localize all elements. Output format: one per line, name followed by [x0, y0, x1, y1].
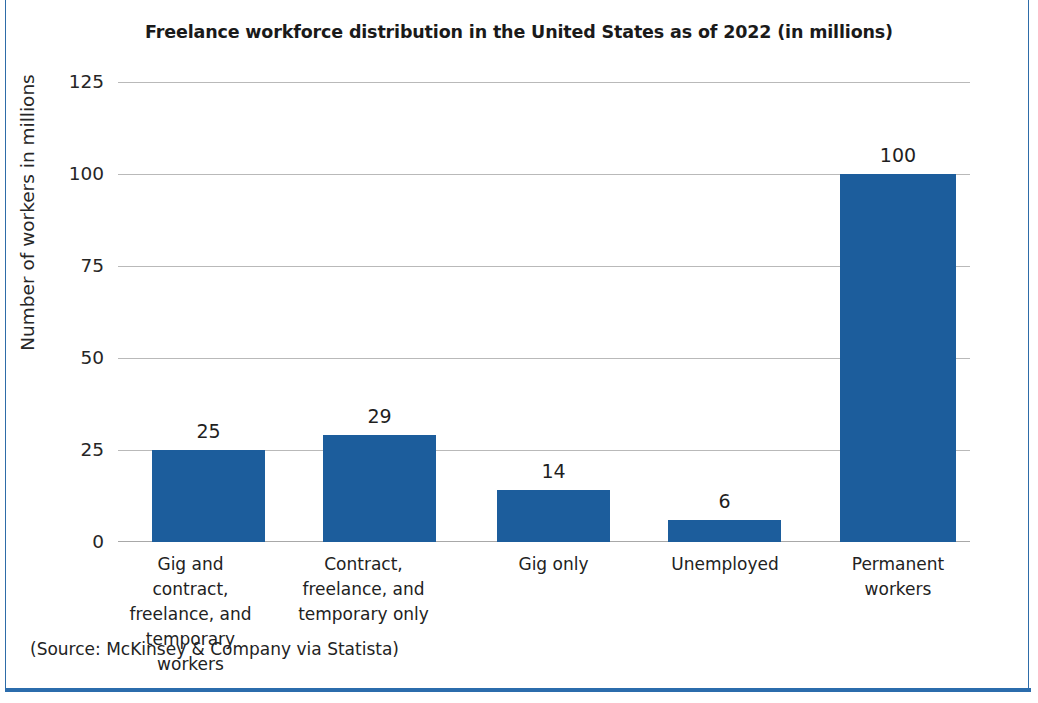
- chart-title: Freelance workforce distribution in the …: [0, 22, 1038, 42]
- gridline-125: [118, 82, 970, 83]
- x-axis-category-label-1-line-2: freelance, and: [122, 602, 259, 627]
- y-axis-tick-0: 0: [18, 531, 104, 552]
- bar-value-label-3: 14: [497, 460, 610, 482]
- x-axis-category-label-1-line-1: Gig and contract,: [122, 552, 259, 602]
- bar-gig-and-contract-freelance-and-temporary-workers[interactable]: [152, 450, 265, 542]
- x-axis-category-label-3-line-1: Gig only: [481, 552, 626, 577]
- bar-value-label-4: 6: [668, 490, 781, 512]
- bar-permanent-workers[interactable]: [840, 174, 956, 542]
- x-axis-category-label-5-line-1: Permanent: [827, 552, 969, 577]
- bar-value-label-5: 100: [840, 144, 956, 166]
- y-axis-tick-50: 50: [18, 347, 104, 368]
- source-note: (Source: McKinsey & Company via Statista…: [30, 639, 399, 659]
- page-frame-bottom-rule: [5, 688, 1031, 692]
- bar-gig-only[interactable]: [497, 490, 610, 542]
- y-axis-tick-100: 100: [18, 163, 104, 184]
- y-axis-tick-25: 25: [18, 439, 104, 460]
- plot-area: 25 29 14 6 100: [118, 82, 970, 542]
- bar-unemployed[interactable]: [668, 520, 781, 542]
- x-axis-category-label-4-line-1: Unemployed: [650, 552, 800, 577]
- x-axis-category-label-2-line-3: temporary only: [296, 602, 431, 627]
- x-axis-category-label-5-line-2: workers: [827, 577, 969, 602]
- y-axis-tick-75: 75: [18, 255, 104, 276]
- y-axis-tick-125: 125: [18, 71, 104, 92]
- chart-page: Freelance workforce distribution in the …: [0, 0, 1038, 703]
- x-axis-category-label-2: Contract, freelance, and temporary only: [296, 552, 431, 627]
- x-axis-category-label-5: Permanent workers: [827, 552, 969, 602]
- bar-contract-freelance-and-temporary-only[interactable]: [323, 435, 436, 542]
- x-axis-category-label-3: Gig only: [481, 552, 626, 577]
- x-axis-category-label-2-line-2: freelance, and: [296, 577, 431, 602]
- x-axis-category-label-4: Unemployed: [650, 552, 800, 577]
- bar-value-label-1: 25: [152, 420, 265, 442]
- x-axis-category-label-2-line-1: Contract,: [296, 552, 431, 577]
- bar-value-label-2: 29: [323, 405, 436, 427]
